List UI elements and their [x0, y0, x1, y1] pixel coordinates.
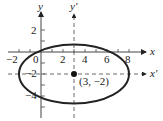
x-tick-6: 6 [104, 53, 110, 65]
x-tick-4: 4 [82, 53, 88, 65]
x-tick-neg2: −2 [6, 53, 18, 65]
ellipse-diagram: x y x′ y′ −2 0 2 4 6 8 2 −2 [0, 0, 163, 121]
y-tick-neg2: −2 [25, 67, 37, 79]
x-prime-axis-label: x′ [149, 67, 158, 79]
x-axis-label: x [149, 45, 155, 57]
x-tick-labels: −2 0 2 4 6 8 [6, 53, 131, 65]
y-prime-axis: y′ [69, 0, 78, 118]
x-tick-2: 2 [60, 53, 66, 65]
center-label: (3, −2) [79, 75, 109, 88]
center-point [71, 71, 77, 77]
y-axis-label: y [37, 0, 43, 12]
y-tick-2: 2 [31, 24, 37, 36]
y-prime-axis-label: y′ [69, 0, 78, 12]
